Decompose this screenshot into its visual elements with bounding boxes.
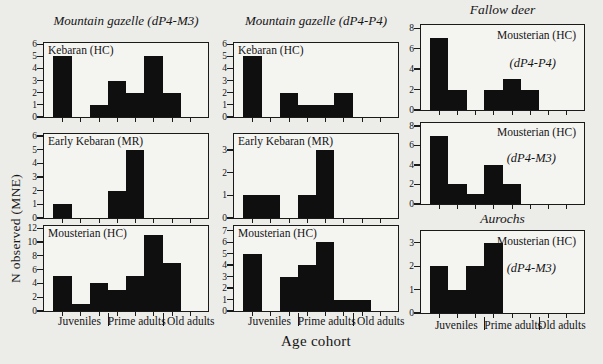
x-tick (380, 117, 381, 122)
y-tick-label: 1 (32, 200, 37, 209)
y-tick-label: 0 (409, 200, 414, 209)
histogram-gazelle-dp4p4-mousterian-hc: 01234567 Mousterian (HC) (233, 225, 399, 312)
y-tick (227, 242, 233, 243)
x-tick (512, 110, 513, 115)
y-tick (227, 56, 233, 57)
y-tick (37, 283, 43, 284)
x-tick (343, 117, 344, 122)
species-title-aurochs: Aurochs (420, 211, 585, 227)
histogram-bar (298, 265, 316, 311)
histogram-bar (430, 38, 448, 110)
x-tick (362, 117, 363, 122)
histogram-bar (144, 235, 162, 311)
y-tick-label: 1 (32, 100, 37, 109)
ticklabel-juveniles: Juveniles (58, 315, 101, 327)
x-tick (190, 117, 191, 122)
y-tick-label: 1 (222, 100, 227, 109)
histogram-bar (466, 194, 484, 204)
panel-sublabel: (dP4-P4) (509, 56, 556, 71)
y-tick (37, 204, 43, 205)
histogram-bar (503, 184, 521, 204)
histogram-bar (162, 93, 180, 117)
y-tick-label: 0 (222, 307, 227, 316)
y-tick-label: 2 (409, 180, 414, 189)
histogram-bar (316, 150, 334, 218)
histogram-bar (90, 105, 108, 117)
y-tick (227, 149, 233, 150)
y-tick (227, 276, 233, 277)
y-tick (227, 92, 233, 93)
histogram-bar (334, 300, 352, 311)
y-tick (227, 195, 233, 196)
y-tick (37, 116, 43, 117)
histogram-bar (144, 56, 162, 117)
histogram-bar (298, 105, 316, 117)
x-tick (135, 218, 136, 223)
y-tick-label: 1 (222, 191, 227, 200)
ticklabel-old-adults: Old adults (357, 315, 405, 327)
mortality-profiles-figure: Mountain gazelle (dP4-M3) Mountain gazel… (0, 0, 603, 364)
x-tick (153, 117, 154, 122)
histogram-bar (243, 254, 261, 311)
y-tick-label: 2 (409, 85, 414, 94)
age-cohort-ticklabels-left: Juveniles Prime adults Old adults (43, 313, 209, 329)
panel-label: Early Kebaran (MR) (238, 135, 333, 147)
histogram-bar (53, 56, 71, 117)
y-tick-label: 5 (222, 249, 227, 258)
y-tick-label: 0 (32, 113, 37, 122)
histogram-bar (334, 93, 352, 117)
x-tick (99, 218, 100, 223)
y-tick (37, 255, 43, 256)
histogram-bar (430, 266, 448, 313)
y-tick (414, 109, 420, 110)
y-tick (37, 310, 43, 311)
y-tick-label: 4 (222, 261, 227, 270)
y-tick (37, 44, 43, 45)
y-tick-label: 4 (32, 64, 37, 73)
histogram-bar (484, 165, 502, 204)
y-tick-label: 4 (32, 279, 37, 288)
y-tick (37, 241, 43, 242)
y-tick-label: 6 (409, 44, 414, 53)
y-tick-label: 8 (32, 251, 37, 260)
y-tick (37, 135, 43, 136)
x-tick (325, 218, 326, 223)
y-tick-label: 6 (32, 132, 37, 141)
x-tick (270, 117, 271, 122)
y-tick (37, 176, 43, 177)
age-cohort-ticklabels-middle: Juveniles Prime adults Old adults (233, 313, 399, 329)
y-tick (414, 145, 420, 146)
histogram-gazelle-dp4m3-early-kebaran-mr: 0123456 Early Kebaran (MR) (43, 133, 209, 219)
y-tick (37, 163, 43, 164)
x-tick (548, 110, 549, 115)
y-tick-label: 1 (409, 285, 414, 294)
y-tick-label: 6 (32, 265, 37, 274)
histogram-bar (484, 90, 502, 110)
y-tick (37, 68, 43, 69)
histogram-bar (126, 150, 144, 218)
histogram-bar (126, 276, 144, 311)
y-tick-label: 4 (409, 65, 414, 74)
x-tick (270, 218, 271, 223)
x-tick (62, 117, 63, 122)
histogram-bar (243, 195, 261, 218)
x-tick (566, 204, 567, 209)
x-tick (172, 218, 173, 223)
x-tick (172, 117, 173, 122)
y-tick-label: 3 (222, 145, 227, 154)
histogram-bar (280, 277, 298, 311)
histogram-bar (448, 290, 466, 313)
histogram-bar (298, 195, 316, 218)
x-tick (307, 218, 308, 223)
y-tick (227, 68, 233, 69)
y-tick-label: 8 (409, 121, 414, 130)
histogram-bar (448, 90, 466, 110)
y-tick-label: 2 (222, 168, 227, 177)
x-tick (80, 117, 81, 122)
x-tick (117, 218, 118, 223)
histogram-bar (466, 266, 484, 313)
y-tick (227, 217, 233, 218)
histogram-fallow-deer-dp4m3-mousterian-hc: 02468 Mousterian (HC) (dP4-M3) (420, 122, 585, 205)
histogram-bar (316, 105, 334, 117)
column-title-gazelle-dp4p4: Mountain gazelle (dP4-P4) (233, 13, 399, 29)
